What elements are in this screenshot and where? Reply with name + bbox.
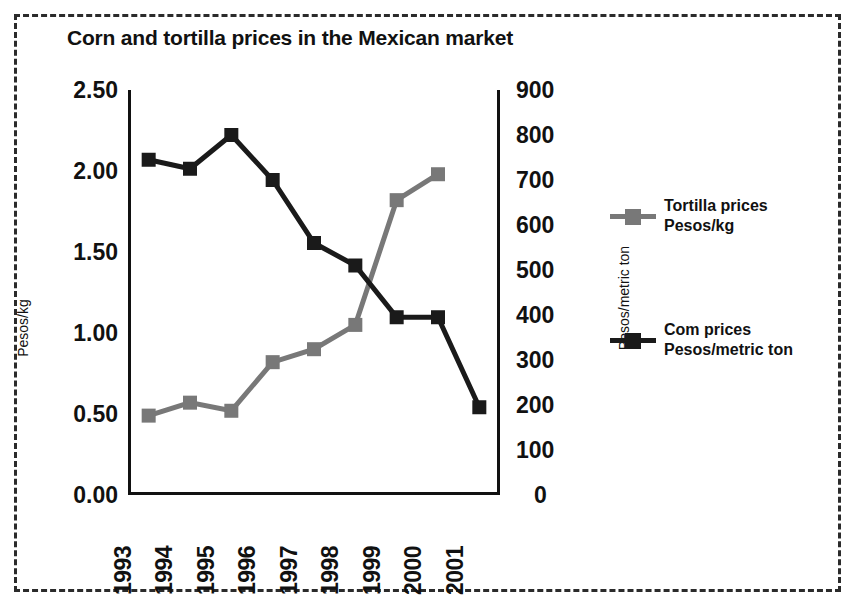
data-point-marker [224,128,238,142]
legend-swatch-corn-icon [610,329,656,351]
data-point-marker [390,193,404,207]
legend-label-tortilla: Tortilla prices Pesos/kg [664,196,768,237]
x-tick-label: 1993 [110,546,137,595]
left-axis-title: Pesos/kg [15,288,31,368]
legend-label-tortilla-line1: Tortilla prices [664,197,768,214]
axis-lines [128,90,500,495]
x-tick-label: 1996 [234,546,261,595]
right-tick-label: 0 [534,482,547,509]
legend-item-tortilla-prices[interactable]: Tortilla prices Pesos/kg [610,196,768,237]
left-tick-label: 2.50 [73,77,118,104]
data-point-marker [307,236,321,250]
data-point-marker [224,404,238,418]
x-tick-label: 2000 [400,546,427,595]
data-point-marker [348,259,362,273]
legend-label-corn-line1: Com prices [664,321,751,338]
right-tick-label: 400 [516,302,554,329]
right-tick-label: 200 [516,392,554,419]
right-tick-label: 800 [516,122,554,149]
legend-label-corn: Com prices Pesos/metric ton [664,320,793,361]
data-point-marker [431,167,445,181]
left-tick-label: 2.00 [73,158,118,185]
x-tick-label: 1998 [317,546,344,595]
chart-figure: Corn and tortilla prices in the Mexican … [0,0,855,609]
series-line [149,135,480,407]
data-point-marker [142,153,156,167]
right-tick-label: 300 [516,347,554,374]
legend-item-corn-prices[interactable]: Com prices Pesos/metric ton [610,320,793,361]
x-tick-label: 1999 [359,546,386,595]
x-tick-label: 2001 [442,546,469,595]
data-point-marker [390,310,404,324]
legend-label-tortilla-line2: Pesos/kg [664,217,734,234]
right-tick-label: 900 [516,77,554,104]
data-point-marker [266,173,280,187]
left-tick-label: 0.00 [73,482,118,509]
plot-svg [128,90,500,495]
right-tick-label: 700 [516,167,554,194]
x-axis-tick-labels: 1993 1994 1995 1996 1997 1998 1999 2000 … [128,500,500,595]
left-tick-label: 1.00 [73,320,118,347]
x-tick-label: 1995 [193,546,220,595]
data-point-marker [472,400,486,414]
left-tick-label: 1.50 [73,239,118,266]
right-tick-label: 600 [516,212,554,239]
data-point-marker [266,355,280,369]
right-tick-label: 500 [516,257,554,284]
x-tick-label: 1994 [151,546,178,595]
data-point-marker [431,310,445,324]
right-tick-label: 100 [516,437,554,464]
right-axis-tick-labels: 900 800 700 600 500 400 300 200 100 0 [516,90,606,495]
x-tick-label: 1997 [276,546,303,595]
series-tortilla-prices [142,167,445,422]
data-point-marker [183,396,197,410]
legend-label-corn-line2: Pesos/metric ton [664,341,793,358]
data-point-marker [142,409,156,423]
chart-title: Corn and tortilla prices in the Mexican … [30,26,550,50]
data-point-marker [183,162,197,176]
left-tick-label: 0.50 [73,401,118,428]
data-point-marker [348,318,362,332]
plot-area [128,90,500,495]
data-point-marker [307,342,321,356]
legend-swatch-tortilla-icon [610,205,656,227]
